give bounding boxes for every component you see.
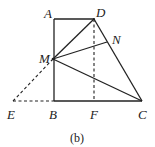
label-N: N <box>111 32 122 47</box>
label-F: F <box>89 107 99 122</box>
label-B: B <box>49 107 57 122</box>
point-D <box>93 18 95 20</box>
label-A: A <box>43 6 52 21</box>
label-M: M <box>38 51 51 66</box>
label-E: E <box>6 107 15 122</box>
segment-MC <box>53 59 142 101</box>
geometry-diagram: A D N M E B F C (b) <box>0 0 155 147</box>
point-M <box>52 58 55 61</box>
label-D: D <box>95 5 106 20</box>
figure-caption: (b) <box>70 131 84 145</box>
label-C: C <box>138 107 147 122</box>
